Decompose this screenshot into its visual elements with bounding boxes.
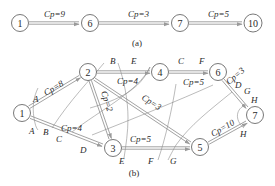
node-a-7: 7	[172, 15, 189, 32]
cut-label-A: A	[28, 126, 35, 136]
svg-text:10: 10	[248, 18, 258, 29]
svg-text:7: 7	[178, 18, 183, 29]
node-a-1: 1	[12, 15, 29, 32]
node-b-6: 6	[210, 64, 227, 81]
cut-label-E: E	[118, 156, 125, 166]
cut-label-B: B	[43, 127, 49, 137]
caption-b: (b)	[129, 168, 140, 178]
cut-label-E: E	[130, 56, 137, 66]
node-b-1: 1	[14, 105, 31, 122]
edge-a-6-7	[99, 22, 169, 24]
diagram-b: Cp=8 Cp=4 Cp=2 Cp=4 Cp=3 Cp=5 Cp=5 Cp=3 …	[14, 56, 264, 178]
edge-label: Cp=5	[130, 134, 152, 144]
edge-label: Cp=4	[61, 123, 83, 133]
diagram-a: Cp=9 Cp=3 Cp=5 1 6 7 10 (a)	[12, 9, 263, 48]
cut-label-H: H	[250, 95, 258, 105]
cut-label-F: F	[147, 156, 154, 166]
cut-label-B: B	[110, 56, 116, 66]
edge-label: Cp=5	[183, 77, 205, 87]
node-b-3: 3	[105, 140, 122, 157]
cut-label-D: D	[234, 80, 242, 90]
svg-text:1: 1	[20, 108, 25, 119]
edge-label: Cp=4	[117, 76, 139, 86]
node-b-5: 5	[192, 139, 209, 156]
edge-label: Cp=10	[209, 117, 237, 139]
cut-label-C: C	[56, 134, 63, 144]
edge-label: Cp=9	[44, 9, 66, 19]
edge-label: Cp=8	[42, 78, 66, 98]
node-a-10: 10	[244, 14, 262, 32]
node-b-7: 7	[247, 107, 264, 124]
node-a-6: 6	[82, 15, 99, 32]
node-b-4: 4	[152, 64, 169, 81]
caption-a: (a)	[132, 38, 142, 48]
svg-text:4: 4	[158, 67, 163, 78]
svg-text:2: 2	[86, 67, 91, 78]
edge-label: Cp=3	[140, 92, 164, 112]
edge-a-1-6	[29, 22, 79, 24]
svg-text:6: 6	[216, 67, 221, 78]
cut-label-D: D	[79, 145, 87, 155]
edge-label: Cp=3	[128, 9, 150, 19]
svg-text:7: 7	[253, 110, 258, 121]
cut-label-H: H	[239, 129, 247, 139]
edge-b-3-5	[122, 147, 190, 149]
edge-b-4-6	[169, 71, 208, 73]
svg-text:1: 1	[18, 18, 23, 29]
cut-label-F: F	[198, 56, 205, 66]
cut-label-G: G	[170, 156, 177, 166]
cut-label-A: A	[32, 94, 39, 104]
network-diagram: Cp=9 Cp=3 Cp=5 1 6 7 10 (a)	[0, 0, 275, 186]
edge-label: Cp=5	[208, 9, 230, 19]
cut-label-C: C	[178, 56, 185, 66]
node-b-2: 2	[80, 64, 97, 81]
edge-a-7-10	[189, 22, 242, 24]
edge-b-2-4	[97, 71, 150, 73]
cut-label-G: G	[244, 86, 251, 96]
svg-text:6: 6	[88, 18, 93, 29]
svg-text:3: 3	[111, 143, 116, 154]
svg-text:5: 5	[198, 142, 203, 153]
